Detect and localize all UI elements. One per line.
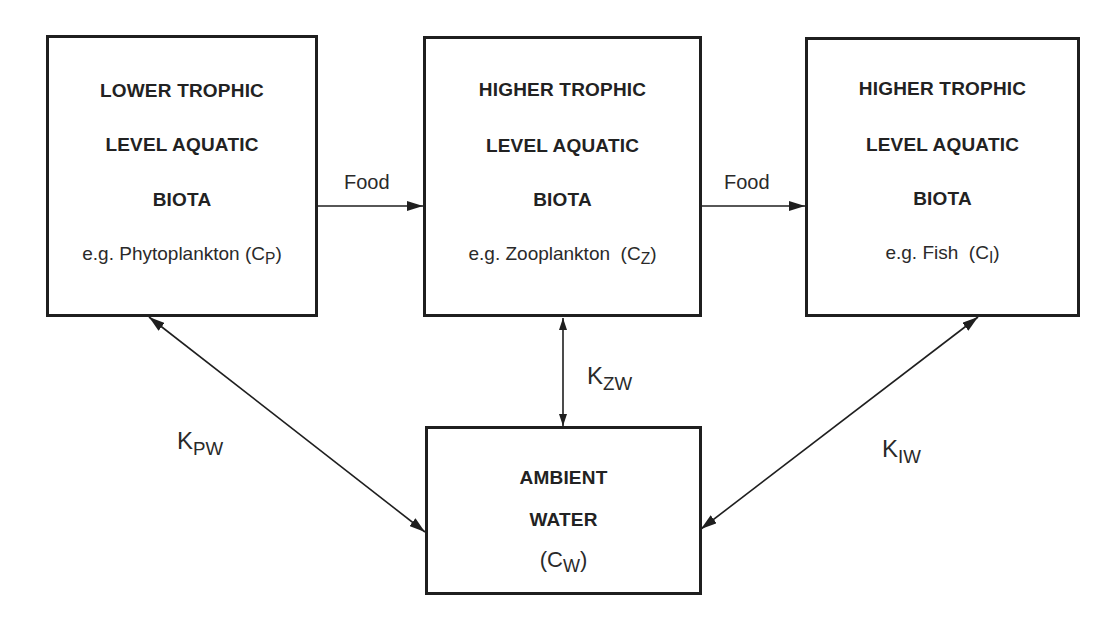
fish-biota-box: HIGHER TROPHIC LEVEL AQUATIC BIOTA e.g. … xyxy=(805,37,1080,317)
example-text: e.g. Fish ( xyxy=(885,242,975,263)
box-example-line: e.g. Fish (CI) xyxy=(808,242,1077,264)
kiw-double-arrow xyxy=(701,317,978,529)
concentration-symbol: CP xyxy=(251,243,275,264)
kzw-label: KZW xyxy=(587,362,632,390)
box-title-line: LEVEL AQUATIC xyxy=(808,134,1077,156)
food-label-2: Food xyxy=(724,171,770,194)
box-title-line: WATER xyxy=(428,509,699,531)
box-title-line: LOWER TROPHIC xyxy=(49,80,315,102)
zooplankton-biota-box: HIGHER TROPHIC LEVEL AQUATIC BIOTA e.g. … xyxy=(423,36,702,317)
box-title-line: BIOTA xyxy=(808,188,1077,210)
box-title-line: HIGHER TROPHIC xyxy=(808,78,1077,100)
example-text: e.g. Zooplankton ( xyxy=(468,243,626,264)
kpw-double-arrow xyxy=(149,317,425,532)
box-title-line: BIOTA xyxy=(426,189,699,211)
box-example-line: e.g. Zooplankton (CZ) xyxy=(426,243,699,265)
lower-trophic-biota-box: LOWER TROPHIC LEVEL AQUATIC BIOTA e.g. P… xyxy=(46,35,318,317)
concentration-symbol: CW xyxy=(547,547,580,572)
box-title-line: AMBIENT xyxy=(428,467,699,489)
concentration-symbol: CZ xyxy=(627,243,650,264)
box-title-line: HIGHER TROPHIC xyxy=(426,79,699,101)
kpw-label: KPW xyxy=(177,427,223,455)
example-text: e.g. Phytoplankton ( xyxy=(82,243,251,264)
food-label-1: Food xyxy=(344,171,390,194)
ambient-water-box: AMBIENT WATER (CW) xyxy=(425,426,702,595)
kiw-label: KIW xyxy=(882,435,921,463)
box-title-line: LEVEL AQUATIC xyxy=(49,134,315,156)
box-symbol-line: (CW) xyxy=(428,547,699,573)
box-title-line: BIOTA xyxy=(49,189,315,211)
box-example-line: e.g. Phytoplankton (CP) xyxy=(49,243,315,265)
diagram-canvas: LOWER TROPHIC LEVEL AQUATIC BIOTA e.g. P… xyxy=(0,0,1118,627)
concentration-symbol: CI xyxy=(975,242,993,263)
box-title-line: LEVEL AQUATIC xyxy=(426,135,699,157)
